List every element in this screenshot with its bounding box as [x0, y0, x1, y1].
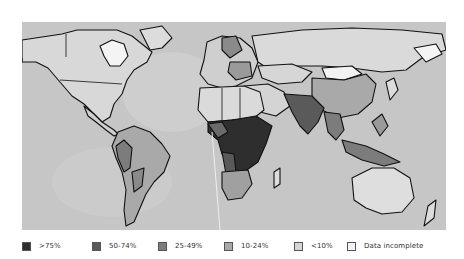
- legend-swatch: [22, 242, 31, 251]
- legend-swatch: [92, 242, 101, 251]
- legend-swatch: [347, 242, 356, 251]
- legend-swatch: [158, 242, 167, 251]
- legend-label: 10-24%: [241, 242, 269, 250]
- map-legend: >75% 50-74% 25-49% 10-24% <10% Data inco…: [22, 241, 446, 253]
- legend-swatch: [224, 242, 233, 251]
- legend-item-under-10: <10%: [294, 241, 333, 251]
- legend-label: Data incomplete: [364, 242, 424, 250]
- legend-item-25-49: 25-49%: [158, 241, 203, 251]
- legend-item-over-75: >75%: [22, 241, 61, 251]
- legend-label: 50-74%: [109, 242, 137, 250]
- legend-item-10-24: 10-24%: [224, 241, 269, 251]
- legend-label: 25-49%: [175, 242, 203, 250]
- legend-item-50-74: 50-74%: [92, 241, 137, 251]
- world-map-graphic: [22, 22, 446, 230]
- legend-label: >75%: [39, 242, 61, 250]
- world-map: [22, 22, 446, 230]
- legend-item-data-incomplete: Data incomplete: [347, 241, 424, 251]
- legend-swatch: [294, 242, 303, 251]
- legend-label: <10%: [311, 242, 333, 250]
